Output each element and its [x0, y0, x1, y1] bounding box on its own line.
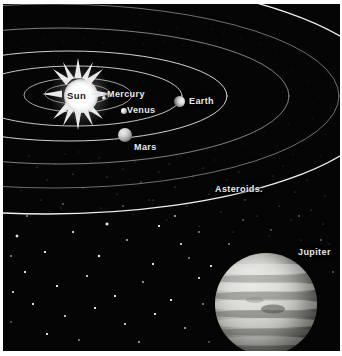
leader-lines-layer — [3, 4, 340, 351]
night-sky-canvas: Sun Mercury Venus Earth Mars Asteroids. … — [3, 4, 340, 351]
solar-system-illustration: Sun Mercury Venus Earth Mars Asteroids. … — [0, 0, 342, 356]
